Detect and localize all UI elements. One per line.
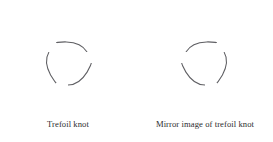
trefoil-lobe-group [0, 6, 136, 116]
panel-trefoil-knot: Trefoil knot [0, 0, 136, 142]
trefoil-knot-figure: Trefoil knot [0, 0, 273, 142]
caption-mirror-trefoil-knot: Mirror image of trefoil knot [137, 119, 273, 130]
mirror-trefoil-knot-diagram [137, 6, 273, 116]
caption-trefoil-knot: Trefoil knot [0, 119, 136, 130]
mirror-trefoil-lobe-group [137, 6, 273, 116]
trefoil-knot-diagram [0, 6, 136, 116]
panel-mirror-trefoil-knot: Mirror image of trefoil knot [137, 0, 273, 142]
